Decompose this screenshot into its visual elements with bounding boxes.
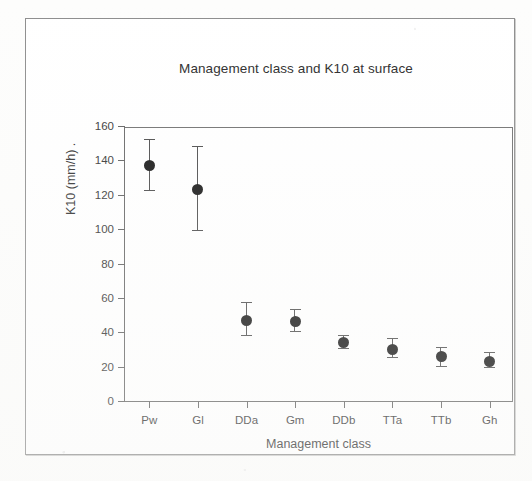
- y-tick-mark: [118, 195, 125, 196]
- data-marker: [436, 351, 447, 362]
- x-tick-label: TTb: [431, 414, 451, 426]
- x-tick-mark: [295, 401, 296, 408]
- y-tick-label: 40: [101, 326, 114, 338]
- error-bar-cap-lower: [192, 230, 203, 231]
- y-tick-mark: [118, 264, 125, 265]
- data-marker: [144, 160, 155, 171]
- x-tick-mark: [198, 401, 199, 408]
- x-tick-label: Gl: [192, 414, 204, 426]
- error-bar-cap-lower: [144, 190, 155, 191]
- y-tick-mark: [118, 332, 125, 333]
- x-tick-label: Gh: [482, 414, 497, 426]
- y-tick-label: 0: [108, 395, 114, 407]
- y-tick-label: 140: [95, 154, 114, 166]
- x-tick-label: TTa: [383, 414, 402, 426]
- y-tick-label: 60: [101, 292, 114, 304]
- x-tick-mark: [441, 401, 442, 408]
- error-bar-cap-upper: [484, 352, 495, 353]
- x-tick-mark: [344, 401, 345, 408]
- y-tick-label: 80: [101, 258, 114, 270]
- error-bar-cap-upper: [387, 338, 398, 339]
- y-tick-mark: [118, 229, 125, 230]
- error-bar-cap-lower: [484, 367, 495, 368]
- x-tick-mark: [149, 401, 150, 408]
- x-tick-label: DDb: [332, 414, 355, 426]
- y-tick-mark: [118, 126, 125, 127]
- figure-frame: Management class and K10 at surface K10 …: [25, 18, 515, 455]
- error-bar-cap-upper: [192, 146, 203, 147]
- y-tick-mark: [118, 298, 125, 299]
- y-tick-label: 100: [95, 223, 114, 235]
- data-marker: [192, 184, 203, 195]
- y-tick-label: 160: [95, 120, 114, 132]
- y-axis-title: K10 (mm/h) .: [64, 95, 78, 215]
- plot-inner: 020406080100120140160 PwGlDDaGmDDbTTaTTb…: [125, 128, 512, 401]
- data-marker: [338, 337, 349, 348]
- data-marker: [484, 356, 495, 367]
- data-marker: [290, 316, 301, 327]
- x-tick-mark: [392, 401, 393, 408]
- error-bar-cap-upper: [436, 347, 447, 348]
- error-bar-cap-lower: [387, 357, 398, 358]
- x-tick-label: Pw: [141, 414, 157, 426]
- data-marker: [387, 344, 398, 355]
- scanned-figure-page: Management class and K10 at surface K10 …: [0, 0, 532, 481]
- x-axis-title: Management class: [124, 437, 513, 451]
- y-tick-label: 20: [101, 361, 114, 373]
- error-bar-cap-upper: [338, 335, 349, 336]
- y-tick-mark: [118, 367, 125, 368]
- chart-title: Management class and K10 at surface: [51, 61, 532, 76]
- y-tick-mark: [118, 401, 125, 402]
- y-tick-label: 120: [95, 189, 114, 201]
- data-marker: [241, 315, 252, 326]
- error-bar-cap-lower: [241, 335, 252, 336]
- error-bar-cap-lower: [290, 331, 301, 332]
- error-bar-cap-upper: [144, 139, 155, 140]
- y-tick-mark: [118, 160, 125, 161]
- plot-area: 020406080100120140160 PwGlDDaGmDDbTTaTTb…: [124, 127, 513, 402]
- x-tick-mark: [490, 401, 491, 408]
- error-bar-cap-upper: [290, 309, 301, 310]
- x-tick-label: Gm: [286, 414, 305, 426]
- error-bar-cap-lower: [338, 348, 349, 349]
- x-tick-mark: [247, 401, 248, 408]
- x-tick-label: DDa: [235, 414, 258, 426]
- error-bar-cap-lower: [436, 366, 447, 367]
- error-bar-cap-upper: [241, 302, 252, 303]
